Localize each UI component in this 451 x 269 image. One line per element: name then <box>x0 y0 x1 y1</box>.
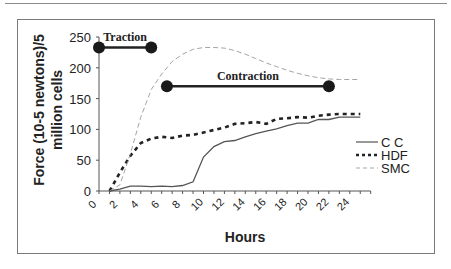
y-tick-label: 200 <box>69 61 91 76</box>
y-tick-label: 50 <box>77 153 91 168</box>
annotations: TractionContraction <box>93 30 335 92</box>
contraction-label: Contraction <box>217 69 279 83</box>
x-tick-label: 18 <box>272 196 289 213</box>
axes: 050100150200250024681012141618202224 <box>69 30 370 213</box>
x-tick-label: 8 <box>169 198 182 211</box>
traction-end-marker <box>145 41 157 53</box>
x-tick-label: 14 <box>230 196 247 213</box>
x-axis-title: Hours <box>225 229 266 245</box>
y-tick-label: 250 <box>69 30 91 45</box>
y-tick-label: 150 <box>69 92 91 107</box>
x-tick-label: 16 <box>251 196 268 213</box>
series-line-cc <box>110 117 361 191</box>
contraction-end-marker <box>323 80 335 92</box>
y-axis-title-line1: Force (10-5 newtons)/5 <box>31 34 47 186</box>
x-tick-label: 20 <box>293 196 310 213</box>
x-tick-label: 22 <box>313 196 330 213</box>
y-tick-label: 0 <box>84 184 91 199</box>
x-tick-label: 2 <box>107 198 120 211</box>
series-line-hdf <box>110 114 361 191</box>
y-tick-label: 100 <box>69 122 91 137</box>
x-tick-label: 0 <box>86 198 99 211</box>
x-tick-label: 12 <box>209 196 226 213</box>
x-tick-label: 24 <box>334 196 351 213</box>
x-tick-label: 10 <box>188 196 205 213</box>
line-chart: 050100150200250024681012141618202224 Tra… <box>0 0 451 269</box>
contraction-start-marker <box>161 80 173 92</box>
traction-label: Traction <box>103 30 147 44</box>
x-tick-label: 4 <box>128 198 141 211</box>
x-tick-label: 6 <box>148 198 161 211</box>
legend-label-smc: SMC <box>381 161 410 176</box>
legend: C C HDF SMC <box>356 135 410 176</box>
y-axis-title-line2: million cells <box>49 70 65 150</box>
